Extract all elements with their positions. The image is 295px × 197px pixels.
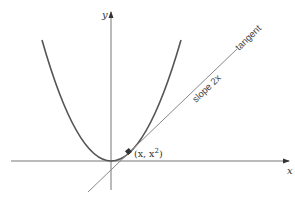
point-label-close: ) — [159, 148, 163, 159]
tangent-label: tangent — [233, 22, 264, 52]
parabola-tangent-diagram: y x (x, x2) slope 2x tangent — [0, 0, 295, 197]
x-axis-label: x — [287, 165, 293, 176]
tangent-point-marker — [125, 148, 132, 155]
point-label: (x, x2) — [134, 147, 163, 159]
tangent-line — [88, 49, 237, 192]
diagram-canvas: y x (x, x2) slope 2x tangent — [0, 0, 295, 197]
slope-label: slope 2x — [190, 72, 223, 105]
point-label-base: (x, x — [134, 148, 155, 159]
y-axis-label: y — [101, 9, 108, 20]
